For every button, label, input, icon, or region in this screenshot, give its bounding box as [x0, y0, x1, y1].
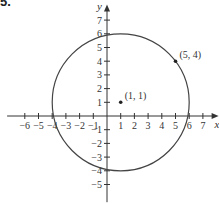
x-tick-label: 1: [118, 120, 123, 131]
coordinate-plane: xy −6−5−4−3−2−11234567−5−4−3−2−11234567 …: [0, 0, 219, 203]
x-tick-label: 5: [173, 120, 178, 131]
point-marker: [119, 101, 123, 105]
y-tick-label: 7: [97, 15, 102, 26]
axes: xy: [7, 0, 219, 202]
y-tick-label: 4: [97, 56, 102, 67]
tick-marks: −6−5−4−3−2−11234567−5−4−3−2−11234567: [19, 15, 205, 190]
y-axis-arrow-icon: [104, 4, 110, 11]
x-tick-label: −6: [19, 120, 30, 131]
y-tick-label: −3: [91, 152, 102, 163]
y-tick-label: 3: [97, 69, 102, 80]
point-label: (5, 4): [180, 49, 202, 61]
y-tick-label: 1: [97, 97, 102, 108]
y-axis-label: y: [96, 0, 102, 12]
x-tick-label: 3: [146, 120, 151, 131]
point-label: (1, 1): [125, 90, 147, 102]
y-tick-label: 2: [97, 83, 102, 94]
x-tick-label: 4: [159, 120, 164, 131]
x-tick-label: −5: [33, 120, 44, 131]
x-tick-label: 6: [187, 120, 192, 131]
y-tick-label: 5: [97, 42, 102, 53]
y-tick-label: −2: [91, 138, 102, 149]
x-axis-label: x: [214, 118, 219, 130]
y-tick-label: −1: [91, 124, 102, 135]
x-tick-label: −3: [61, 120, 72, 131]
x-tick-label: 2: [132, 120, 137, 131]
x-tick-label: −2: [74, 120, 85, 131]
y-tick-label: −5: [91, 179, 102, 190]
point-marker: [174, 59, 178, 63]
x-tick-label: 7: [200, 120, 205, 131]
